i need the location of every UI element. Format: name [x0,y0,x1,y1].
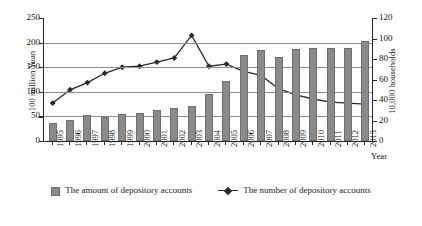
x-axis-tick-label: 2009 [298,130,308,147]
y-axis-right-tick-label: 60 [379,74,419,84]
x-axis-tick-mark [225,141,226,145]
x-axis-tick-label: 1997 [90,130,100,147]
y-axis-left-tick-mark [39,43,43,44]
y-axis-left-tick-mark [39,116,43,117]
y-axis-left-tick-mark [39,141,43,142]
y-axis-left-tick-label: 200 [0,37,40,47]
y-axis-right-tick-mark [373,39,377,40]
x-axis-title: Year [371,151,387,161]
y-axis-right-tick-mark [373,80,377,81]
x-axis-tick-label: 2001 [159,130,169,147]
x-axis-tick-mark [243,141,244,145]
x-axis-tick-label: 1998 [107,130,117,147]
x-axis-tick-mark [69,141,70,145]
gridline [44,92,372,93]
x-axis-tick-mark [312,141,313,145]
x-axis-tick-mark [173,141,174,145]
bar [257,50,265,141]
bar-swatch-icon [51,187,60,196]
line-diamond-swatch-icon [218,186,238,195]
x-axis-tick-mark [191,141,192,145]
y-axis-left-tick-mark [39,18,43,19]
x-axis-tick-mark [139,141,140,145]
x-axis-tick-mark [364,141,365,145]
x-axis-tick-mark [104,141,105,145]
line-marker-diamond [154,59,160,65]
bar [327,48,335,141]
x-axis-tick-mark [260,141,261,145]
y-axis-right-tick-label: 100 [379,33,419,43]
bar [275,57,283,141]
x-axis-tick-label: 2011 [333,130,343,147]
y-axis-left-tick-label: 0 [0,135,40,145]
x-axis-tick-label: 1995 [55,130,65,147]
x-axis-tick-label: 1996 [73,130,83,147]
y-axis-right-tick-label: 0 [379,135,419,145]
line-marker-diamond [206,63,212,69]
plot-area [43,18,373,141]
x-axis-tick-label: 2012 [350,130,360,147]
plot-inner [44,18,372,141]
x-axis-tick-mark [121,141,122,145]
x-axis-tick-label: 2007 [264,130,274,147]
bar [344,48,352,141]
legend-label-line: The number of depository accounts [243,185,370,196]
chart-legend: The amount of depository accounts The nu… [0,185,422,196]
y-axis-right-tick-label: 80 [379,53,419,63]
legend-label-bars: The amount of depository accounts [65,185,192,196]
x-axis-tick-mark [278,141,279,145]
x-axis-tick-label: 2006 [246,130,256,147]
x-axis-tick-mark [330,141,331,145]
gridline [44,67,372,68]
x-axis-tick-mark [86,141,87,145]
x-axis-tick-mark [347,141,348,145]
y-axis-left-tick-label: 250 [0,12,40,22]
y-axis-left-tick-mark [39,67,43,68]
x-axis-tick-label: 2004 [212,130,222,147]
y-axis-right-tick-mark [373,100,377,101]
x-axis-tick-label: 2005 [229,130,239,147]
y-axis-left-tick-label: 50 [0,110,40,120]
gridline [44,43,372,44]
x-axis-tick-mark [156,141,157,145]
x-axis-tick-mark [295,141,296,145]
line-marker-diamond [102,70,108,76]
x-axis-tick-label: 2013 [368,130,378,147]
y-axis-left-tick-mark [39,92,43,93]
y-axis-right-tick-mark [373,18,377,19]
line-marker-diamond [84,80,90,86]
x-axis-tick-mark [208,141,209,145]
chart-container: 100 million Yuan 10,000 households Year … [0,0,422,226]
bar [361,41,369,141]
y-axis-right-tick-mark [373,121,377,122]
y-axis-right-tick-label: 40 [379,94,419,104]
y-axis-left-tick-label: 150 [0,61,40,71]
x-axis-tick-label: 2003 [194,130,204,147]
y-axis-left-tick-label: 100 [0,86,40,96]
legend-item-line: The number of depository accounts [218,185,370,196]
x-axis-tick-mark [52,141,53,145]
line-marker-diamond [137,63,143,69]
y-axis-right-tick-label: 20 [379,115,419,125]
x-axis-tick-label: 1999 [125,130,135,147]
line-marker-diamond [223,61,229,67]
y-axis-right-tick-mark [373,59,377,60]
bar [240,55,248,141]
x-axis-tick-label: 2008 [281,130,291,147]
y-axis-right-tick-label: 120 [379,12,419,22]
legend-item-bars: The amount of depository accounts [51,185,192,196]
x-axis-tick-label: 2000 [142,130,152,147]
bar [292,49,300,142]
x-axis-tick-label: 2010 [316,130,326,147]
bar [309,48,317,142]
x-axis-tick-label: 2002 [177,130,187,147]
